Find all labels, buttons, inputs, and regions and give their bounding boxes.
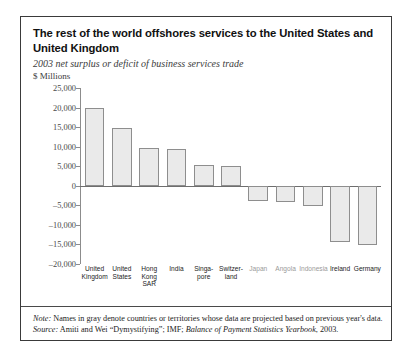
x-axis-label-line: Ireland <box>326 265 353 273</box>
x-axis-tick-label: Indonesia <box>299 265 326 273</box>
bar[interactable] <box>330 186 350 243</box>
x-axis-tick-label: Germany <box>354 265 381 273</box>
x-axis-labels: UnitedKingdomUnitedStatesHongKongSARIndi… <box>81 265 381 299</box>
y-axis-tick-label: 10,000 <box>53 142 76 151</box>
x-axis-label-line: India <box>163 265 190 273</box>
source-text-b: , 2003. <box>316 325 339 334</box>
x-axis-label-line: land <box>217 273 244 281</box>
x-axis-label-line: United <box>81 265 108 273</box>
bar-slot <box>108 88 135 264</box>
x-axis-label-line: SAR <box>136 280 163 288</box>
x-axis-tick-label: Japan <box>245 265 272 273</box>
x-axis-label-line: United <box>108 265 135 273</box>
x-axis-tick-label: HongKongSAR <box>136 265 163 288</box>
bar-series <box>81 88 381 264</box>
x-axis-label-line: Angola <box>272 265 299 273</box>
y-axis-tick-label: 20,000 <box>53 103 76 112</box>
note-label: Note: <box>33 314 51 323</box>
x-axis-label-line: Hong <box>136 265 163 273</box>
footer-divider <box>21 306 391 307</box>
y-axis-tick-label: 5,000 <box>57 162 76 171</box>
bar-slot <box>217 88 244 264</box>
x-axis-label-line: pore <box>190 273 217 281</box>
x-axis-label-line: Singa- <box>190 265 217 273</box>
figure-panel: The rest of the world offshores services… <box>20 16 392 341</box>
bar[interactable] <box>112 128 132 186</box>
bar-slot <box>299 88 326 264</box>
y-axis-tick-label: 15,000 <box>53 123 76 132</box>
bar[interactable] <box>139 148 159 186</box>
bar[interactable] <box>248 186 268 201</box>
bar[interactable] <box>167 149 187 186</box>
x-axis-tick-label: Singa-pore <box>190 265 217 280</box>
source-line: Source: Amiti and Wei “Dymystifying”; IM… <box>33 324 383 335</box>
x-axis-label-line: Switzer- <box>217 265 244 273</box>
x-axis-label-line: Indonesia <box>299 265 326 273</box>
source-publication: Balance of Payment Statistics Yearbook <box>186 325 316 334</box>
source-text-a: Amiti and Wei “Dymystifying”; IMF; <box>58 325 185 334</box>
source-label: Source: <box>33 325 58 334</box>
bar-slot <box>354 88 381 264</box>
y-axis-tick-label: 25,000 <box>53 84 76 93</box>
y-axis-tick-mark <box>76 166 80 167</box>
bar-slot <box>163 88 190 264</box>
y-axis-tick-label: –15,000 <box>49 240 76 249</box>
bar[interactable] <box>358 186 378 245</box>
y-axis-tick-mark <box>76 147 80 148</box>
y-axis-labels: 25,00020,00015,00010,0005,0000–5,000–10,… <box>33 88 76 264</box>
x-axis-tick-label: UnitedKingdom <box>81 265 108 280</box>
y-axis-tick-mark <box>76 127 80 128</box>
y-axis-tick-mark <box>76 225 80 226</box>
note-text: Names in gray denote countries or territ… <box>51 314 382 323</box>
x-axis-tick-label: India <box>163 265 190 273</box>
bar[interactable] <box>303 186 323 206</box>
x-axis-label-line: Kingdom <box>81 273 108 281</box>
note-line: Note: Names in gray denote countries or … <box>33 313 383 324</box>
bar-slot <box>190 88 217 264</box>
x-axis-label-line: Japan <box>245 265 272 273</box>
footnotes: Note: Names in gray denote countries or … <box>33 313 383 335</box>
bar[interactable] <box>276 186 296 202</box>
y-axis-tick-mark <box>76 264 80 265</box>
y-axis-tick-mark <box>76 88 80 89</box>
x-axis-label-line: States <box>108 273 135 281</box>
bar[interactable] <box>85 108 105 185</box>
x-axis-tick-label: Ireland <box>326 265 353 273</box>
plot-area: 25,00020,00015,00010,0005,0000–5,000–10,… <box>33 88 381 264</box>
x-axis-tick-label: UnitedStates <box>108 265 135 280</box>
x-axis-tick-label: Angola <box>272 265 299 273</box>
y-axis-tick-mark <box>76 205 80 206</box>
bar-slot <box>245 88 272 264</box>
bar[interactable] <box>194 165 214 185</box>
bar-slot <box>136 88 163 264</box>
bar[interactable] <box>221 166 241 186</box>
y-axis-tick-label: –5,000 <box>53 201 76 210</box>
chart-subtitle: 2003 net surplus or deficit of business … <box>33 58 244 69</box>
y-axis-tick-mark <box>76 108 80 109</box>
y-axis-tick-mark <box>76 244 80 245</box>
bar-slot <box>326 88 353 264</box>
chart-title: The rest of the world offshores services… <box>33 26 381 55</box>
bar-slot <box>81 88 108 264</box>
x-axis-label-line: Germany <box>354 265 381 273</box>
x-axis-tick-label: Switzer-land <box>217 265 244 280</box>
y-axis-tick-label: –10,000 <box>49 220 76 229</box>
bar-slot <box>272 88 299 264</box>
y-axis-tick-label: –20,000 <box>49 260 76 269</box>
chart-units-label: $ Millions <box>33 71 70 81</box>
y-axis-tick-mark <box>76 186 80 187</box>
x-axis-label-line: Kong <box>136 273 163 281</box>
